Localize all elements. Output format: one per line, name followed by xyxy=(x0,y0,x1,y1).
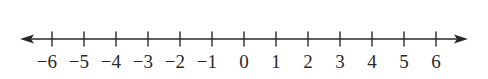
tick-label: 1 xyxy=(271,51,281,72)
tick-labels-group: −6−5−4−3−2−10123456 xyxy=(37,51,441,72)
tick-label: 4 xyxy=(367,51,377,72)
tick-label: 6 xyxy=(431,51,441,72)
tick-label: 3 xyxy=(335,51,345,72)
tick-label: 5 xyxy=(399,51,409,72)
tick-label: −5 xyxy=(69,51,89,72)
tick-label: −2 xyxy=(165,51,185,72)
tick-label: −4 xyxy=(101,51,122,72)
tick-label: −6 xyxy=(37,51,57,72)
number-line: −6−5−4−3−2−10123456 xyxy=(0,0,488,79)
tick-label: 2 xyxy=(303,51,313,72)
tick-label: −3 xyxy=(133,51,153,72)
tick-label: −1 xyxy=(197,51,217,72)
tick-label: 0 xyxy=(239,51,249,72)
